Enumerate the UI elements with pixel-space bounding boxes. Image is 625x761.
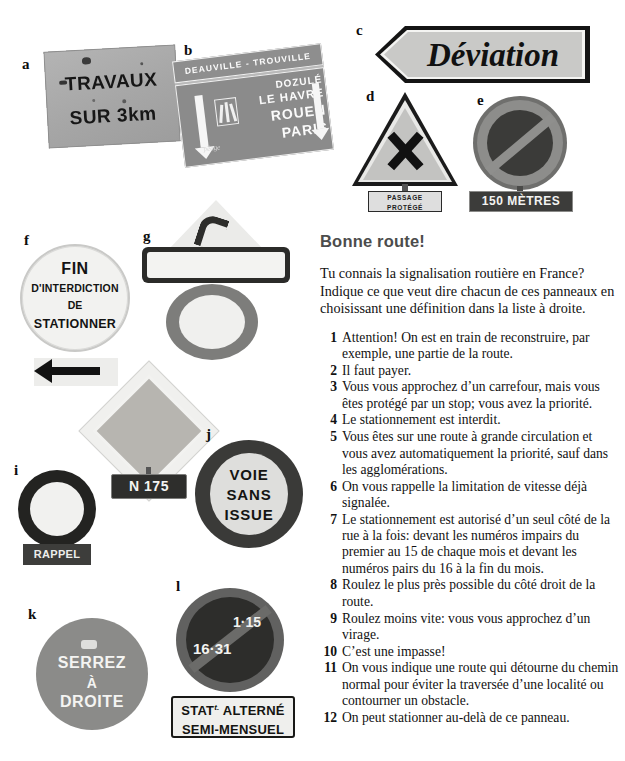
definition-number: 4 [320, 412, 337, 428]
motorway-icon [214, 97, 239, 126]
sign-h-plate-text: N 175 [112, 475, 186, 498]
sign-photo-stationnement-alterne: 1·15 16·31 STATt. ALTERNÉ SEMI-MENSUEL [171, 588, 295, 738]
exercise-text-column: Bonne route! Tu connais la signalisation… [320, 232, 620, 727]
sign-photo-80-rappel: 80 RAPPEL [18, 470, 108, 566]
speed-limit-face [179, 295, 245, 349]
speed-limit-face [30, 482, 84, 536]
page-title: Bonne route! [320, 232, 620, 251]
sign-e-plate: 150 MÈTRES [469, 191, 573, 212]
sign-j-line2: SANS [195, 486, 303, 503]
round-sign-face [36, 618, 148, 730]
sign-a-line1: TRAVAUX [45, 68, 178, 95]
sign-j-line3: ISSUE [195, 506, 303, 523]
definition-number: 12 [320, 710, 337, 726]
definition-text: Vous vous approchez d’un carrefour, mais… [342, 379, 600, 410]
sign-k-line1: SERREZ [36, 654, 148, 672]
definition-item: 12On peut stationner au-delà de ce panne… [320, 710, 620, 726]
definition-number: 9 [320, 611, 337, 627]
definition-number: 11 [320, 660, 337, 676]
definition-number: 10 [320, 644, 337, 660]
definition-text: Le stationnement est interdit. [342, 412, 501, 427]
sign-photo-passage-protege: PASSAGE PROTÉGÉ [352, 92, 458, 212]
sign-f-line1: FIN [20, 260, 130, 278]
definition-item: 10C’est une impasse! [320, 644, 620, 660]
definition-item: 2Il faut payer. [320, 363, 620, 379]
sign-photo-deviation: Déviation [375, 26, 590, 83]
sign-l-plate: STATt. ALTERNÉ SEMI-MENSUEL [171, 696, 295, 738]
left-arrow-icon [52, 367, 100, 375]
sign-photo-serrez-a-droite: SERREZ À DROITE [36, 618, 148, 730]
definition-text: C’est une impasse! [342, 644, 445, 659]
definition-item: 8Roulez le plus près possible du côté dr… [320, 577, 620, 610]
definition-text: Attention! On est en train de reconstrui… [342, 330, 590, 361]
sign-l-plate-line1: STATt. ALTERNÉ [173, 698, 293, 720]
definition-text: Il faut payer. [342, 363, 411, 378]
sign-l-plate-stat: STAT [181, 703, 214, 718]
sign-b-body: péage DOZULÉ LE HAVRE ROUEN PARIS [175, 67, 334, 168]
sign-i-plate-text: RAPPEL [23, 544, 91, 565]
definition-text: On vous rappelle la limitation de vitess… [342, 479, 587, 510]
sign-label-c: c [356, 22, 363, 39]
worksheet-page: a TRAVAUX SUR 3km b DEAUVILLE - TROUVILL… [0, 0, 625, 761]
sign-k-line2: À [36, 675, 148, 691]
sign-label-b: b [184, 42, 192, 59]
definition-text: Roulez moins vite: vous vous approchez d… [342, 611, 590, 642]
sign-g-plate: RALENTISSEZ [142, 247, 290, 283]
sign-blemish [82, 57, 91, 64]
definition-number: 1 [320, 330, 337, 346]
definition-list: 1Attention! On est en train de reconstru… [320, 330, 620, 727]
sign-d-plate-line1: PASSAGE [369, 192, 441, 202]
definition-item: 6On vous rappelle la limitation de vites… [320, 479, 620, 512]
definition-item: 4Le stationnement est interdit. [320, 412, 620, 428]
sign-f-line3: DE [20, 299, 130, 311]
sign-l-num2: 16·31 [193, 640, 231, 657]
sign-a-line2: SUR 3km [47, 102, 180, 129]
sign-l-plate-line2: SEMI-MENSUEL [173, 720, 293, 739]
definition-number: 5 [320, 429, 337, 445]
plate-face [147, 252, 285, 278]
definition-number: 6 [320, 479, 337, 495]
sign-f-line4: STATIONNER [20, 317, 130, 331]
sign-photo-fin-interdiction: FIN D'INTERDICTION DE STATIONNER [20, 244, 136, 388]
definition-text: On peut stationner au-delà de ce panneau… [342, 710, 570, 725]
sign-d-plate-line2: PROTÉGÉ [369, 202, 441, 212]
sign-photo-voie-sans-issue: VOIE SANS ISSUE [195, 440, 303, 548]
definition-item: 1Attention! On est en train de reconstru… [320, 330, 620, 363]
down-arrow-icon [194, 95, 208, 148]
sign-blemish [92, 99, 95, 102]
definition-number: 8 [320, 577, 337, 593]
sign-photo-travaux: TRAVAUX SUR 3km [43, 44, 180, 148]
definition-text: On vous indique une route qui détourne d… [342, 660, 618, 708]
definition-number: 3 [320, 379, 337, 395]
definition-number: 7 [320, 512, 337, 528]
definition-item: 3Vous vous approchez d’un carrefour, mai… [320, 379, 620, 412]
sign-h-plate: N 175 [111, 474, 187, 499]
definition-number: 2 [320, 363, 337, 379]
sign-blemish [122, 99, 126, 103]
sign-label-a: a [22, 56, 30, 73]
definition-item: 5Vous êtes sur une route à grande circul… [320, 429, 620, 478]
sign-c-text: Déviation [427, 30, 582, 83]
speed-limit-circle: 40 [166, 284, 258, 360]
definition-item: 11On vous indique une route qui détourne… [320, 660, 620, 709]
sign-k-line3: DROITE [36, 693, 148, 711]
sign-d-plate: PASSAGE PROTÉGÉ [368, 191, 442, 212]
definition-item: 9Roulez moins vite: vous vous approchez … [320, 611, 620, 644]
sign-i-plate: RAPPEL [23, 544, 91, 565]
sign-f-line2: D'INTERDICTION [20, 282, 130, 294]
sign-photo-priority-road: N 175 [93, 381, 205, 505]
definition-item: 7Le stationnement est autorisé d’un seul… [320, 512, 620, 577]
definition-text: Le stationnement est autorisé d’un seul … [342, 512, 610, 576]
sign-blemish [81, 640, 97, 649]
cross-icon [382, 132, 428, 170]
sign-e-plate-text: 150 MÈTRES [470, 192, 572, 211]
sign-l-num1: 1·15 [233, 614, 261, 630]
definition-text: Roulez le plus près possible du côté dro… [342, 577, 595, 608]
sign-blemish [140, 62, 143, 65]
sign-photo-deauville: DEAUVILLE - TROUVILLE péage DOZULÉ LE HA… [172, 43, 334, 167]
sign-photo-ralentissez: RALENTISSEZ 40 [142, 200, 290, 360]
definition-text: Vous êtes sur une route à grande circula… [342, 429, 608, 477]
sign-photo-no-parking-150m: 150 MÈTRES [466, 96, 576, 212]
speed-limit-circle: 80 [18, 470, 96, 548]
sign-j-line1: VOIE [195, 466, 303, 483]
